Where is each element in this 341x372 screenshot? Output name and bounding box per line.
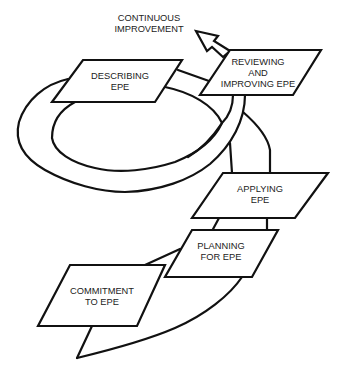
continuous-improvement-label: CONTINUOUS IMPROVEMENT [114, 13, 183, 35]
reviewing-label: REVIEWING AND IMPROVING EPE [221, 57, 295, 90]
lower-band-tail [77, 326, 92, 358]
describing-label: DESCRIBING EPE [91, 71, 149, 93]
commitment-label: COMMITMENT TO EPE [70, 286, 134, 308]
describing-reviewing-band-top [178, 70, 209, 81]
review-applying-line-left [230, 143, 232, 173]
continuous-improvement-arrow-icon [196, 31, 230, 57]
cycle-diagram [0, 0, 341, 372]
planning-label: PLANNING FOR EPE [197, 241, 245, 263]
review-applying-line-right [243, 112, 270, 173]
applying-label: APPLYING EPE [237, 184, 283, 206]
